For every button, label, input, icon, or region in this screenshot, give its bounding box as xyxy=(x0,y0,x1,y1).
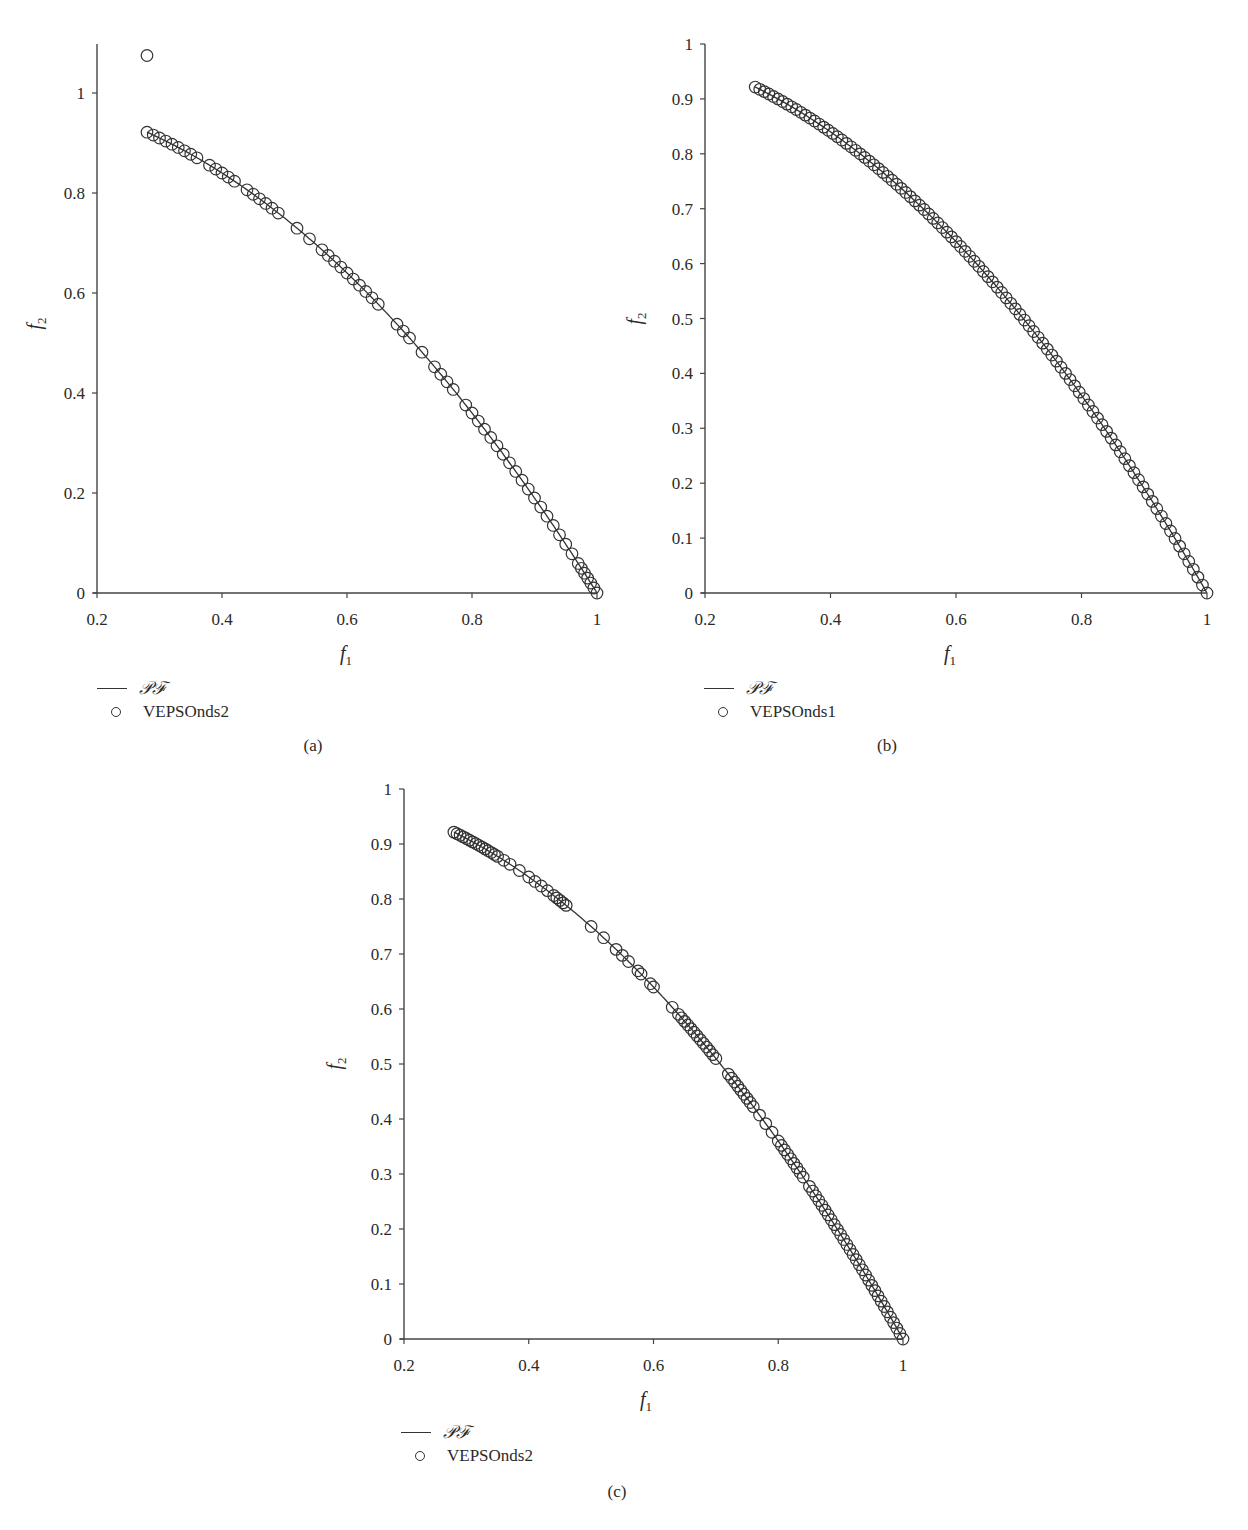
pareto-front-line xyxy=(147,132,597,593)
x-tick-label: 1 xyxy=(1187,611,1227,628)
x-tick-label: 0.2 xyxy=(384,1357,424,1374)
plot-b xyxy=(700,44,1213,599)
x-tick-label: 1 xyxy=(577,611,617,628)
plots-canvas xyxy=(0,0,1248,1530)
plot-c xyxy=(399,789,909,1345)
y-tick-label: 0.4 xyxy=(352,1111,392,1128)
x-tick-label: 0.4 xyxy=(202,611,242,628)
outlier-point xyxy=(141,50,153,62)
y-tick-label: 0.6 xyxy=(653,256,693,273)
y-tick-label: 1 xyxy=(352,781,392,798)
legend-c: 𝒫ℱ VEPSOnds2 xyxy=(401,1420,533,1468)
x-axis-title-a: f1 xyxy=(340,642,352,669)
y-tick-label: 0.2 xyxy=(352,1221,392,1238)
y-tick-label: 0.9 xyxy=(352,836,392,853)
y-tick-label: 0.3 xyxy=(352,1166,392,1183)
y-tick-label: 1 xyxy=(653,36,693,53)
caption-c: (c) xyxy=(597,1482,637,1502)
x-tick-label: 0.2 xyxy=(685,611,725,628)
legend-item-markers: VEPSOnds1 xyxy=(704,700,836,724)
line-swatch-icon xyxy=(401,1432,431,1433)
plot-a xyxy=(92,44,603,599)
y-tick-label: 0.5 xyxy=(653,311,693,328)
pareto-front-line xyxy=(454,832,903,1339)
x-tick-label: 0.4 xyxy=(811,611,851,628)
x-tick-label: 0.4 xyxy=(509,1357,549,1374)
y-tick-label: 0 xyxy=(45,585,85,602)
y-tick-label: 0 xyxy=(653,585,693,602)
y-tick-label: 0.3 xyxy=(653,420,693,437)
legend-item-front: 𝒫ℱ xyxy=(97,676,229,700)
x-tick-label: 0.8 xyxy=(1062,611,1102,628)
legend-item-front: 𝒫ℱ xyxy=(401,1420,533,1444)
x-tick-label: 0.8 xyxy=(758,1357,798,1374)
x-tick-label: 0.8 xyxy=(452,611,492,628)
y-tick-label: 1 xyxy=(45,85,85,102)
y-tick-label: 0.4 xyxy=(653,365,693,382)
x-tick-label: 0.6 xyxy=(327,611,367,628)
figure: f1 f2 𝒫ℱ VEPSOnds2 (a) f1 f2 𝒫ℱ VEPSOnds… xyxy=(0,0,1248,1530)
pareto-front-line xyxy=(755,87,1207,593)
caption-b: (b) xyxy=(867,736,907,756)
y-tick-label: 0.2 xyxy=(45,485,85,502)
circle-marker-icon xyxy=(111,707,121,717)
y-tick-label: 0.8 xyxy=(653,146,693,163)
y-tick-label: 0.6 xyxy=(352,1001,392,1018)
legend-b: 𝒫ℱ VEPSOnds1 xyxy=(704,676,836,724)
line-swatch-icon xyxy=(97,688,127,689)
y-tick-label: 0.8 xyxy=(45,185,85,202)
x-tick-label: 0.6 xyxy=(936,611,976,628)
line-swatch-icon xyxy=(704,688,734,689)
x-tick-label: 0.2 xyxy=(77,611,117,628)
y-tick-label: 0.1 xyxy=(653,530,693,547)
y-tick-label: 0.7 xyxy=(653,201,693,218)
x-tick-label: 1 xyxy=(883,1357,923,1374)
legend-a: 𝒫ℱ VEPSOnds2 xyxy=(97,676,229,724)
y-tick-label: 0.5 xyxy=(352,1056,392,1073)
y-tick-label: 0.7 xyxy=(352,946,392,963)
legend-item-markers: VEPSOnds2 xyxy=(97,700,229,724)
y-tick-label: 0.4 xyxy=(45,385,85,402)
y-tick-label: 0.1 xyxy=(352,1276,392,1293)
x-axis-title-c: f1 xyxy=(640,1388,652,1415)
circle-marker-icon xyxy=(718,707,728,717)
y-tick-label: 0.8 xyxy=(352,891,392,908)
caption-a: (a) xyxy=(293,736,333,756)
x-tick-label: 0.6 xyxy=(634,1357,674,1374)
circle-marker-icon xyxy=(415,1451,425,1461)
y-tick-label: 0 xyxy=(352,1331,392,1348)
y-axis-title-a: f2 xyxy=(23,317,50,329)
legend-item-markers: VEPSOnds2 xyxy=(401,1444,533,1468)
y-tick-label: 0.2 xyxy=(653,475,693,492)
y-axis-title-c: f2 xyxy=(323,1057,350,1069)
legend-item-front: 𝒫ℱ xyxy=(704,676,836,700)
y-axis-title-b: f2 xyxy=(623,312,650,324)
y-tick-label: 0.6 xyxy=(45,285,85,302)
x-axis-title-b: f1 xyxy=(944,642,956,669)
y-tick-label: 0.9 xyxy=(653,91,693,108)
